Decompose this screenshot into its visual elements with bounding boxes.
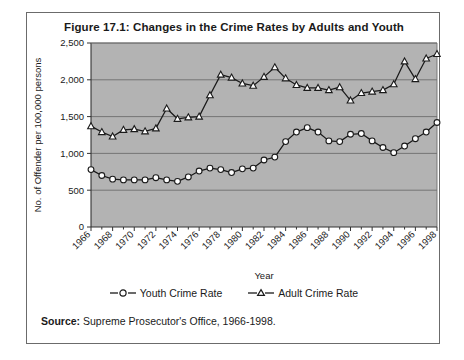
legend-label-adult: Adult Crime Rate [278,287,358,299]
svg-text:1990: 1990 [329,229,352,252]
svg-text:1974: 1974 [156,229,179,252]
svg-text:1968: 1968 [91,229,114,252]
y-axis-title: No. of Offender per 100,000 persons [32,57,43,212]
svg-text:1992: 1992 [351,229,374,252]
figure-container: Figure 17.1: Changes in the Crime Rates … [26,12,440,344]
svg-text:1,500: 1,500 [60,111,84,122]
svg-text:1,000: 1,000 [60,148,84,159]
svg-text:1976: 1976 [178,229,201,252]
svg-text:1972: 1972 [135,229,158,252]
x-axis-tick-labels: 1966196819701972197419761978198019821984… [70,227,439,251]
chart-plot-region: 05001,0001,5002,0002,500 196619681970197… [27,37,441,287]
source-label: Source: [41,315,80,327]
svg-text:1996: 1996 [394,229,417,252]
source-note: Source: Supreme Prosecutor's Office, 196… [41,315,276,327]
svg-text:500: 500 [68,185,84,196]
figure-title: Figure 17.1: Changes in the Crime Rates … [27,21,441,33]
crime-rate-line-chart: 05001,0001,5002,0002,500 196619681970197… [27,37,441,287]
svg-text:1986: 1986 [286,229,309,252]
svg-text:1984: 1984 [264,229,287,252]
svg-text:2,000: 2,000 [60,74,84,85]
svg-text:2,500: 2,500 [60,37,84,48]
chart-legend: Youth Crime Rate Adult Crime Rate [27,287,441,299]
svg-text:1980: 1980 [221,229,244,252]
legend-item-adult: Adult Crime Rate [248,287,358,299]
svg-text:1998: 1998 [416,229,439,252]
legend-triangle-marker-icon [248,288,274,298]
legend-label-youth: Youth Crime Rate [140,287,223,299]
legend-circle-marker-icon [110,288,136,298]
svg-text:1978: 1978 [199,229,222,252]
legend-item-youth: Youth Crime Rate [110,287,223,299]
plot-background [91,43,437,227]
svg-text:1994: 1994 [372,229,395,252]
svg-text:1988: 1988 [308,229,331,252]
y-axis-tick-labels: 05001,0001,5002,0002,500 [60,37,91,232]
svg-text:No. of Offender per 100,000 pe: No. of Offender per 100,000 persons [32,57,43,212]
svg-text:1966: 1966 [70,229,93,252]
svg-text:Year: Year [254,270,273,281]
svg-text:1982: 1982 [243,229,266,252]
source-text: Supreme Prosecutor's Office, 1966-1998. [83,315,276,327]
x-axis-title: Year [254,270,273,281]
svg-text:1970: 1970 [113,229,136,252]
